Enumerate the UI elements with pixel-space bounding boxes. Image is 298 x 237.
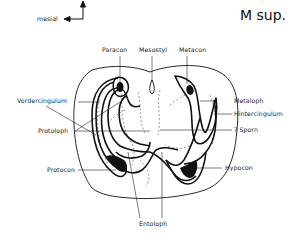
label-protocon: Protocon [47, 167, 75, 173]
tooth-drawing [0, 0, 298, 237]
label-protoloph: Protoloph [38, 128, 68, 134]
orientation-arrows [64, 1, 86, 22]
label-metacon: Metacon [179, 47, 206, 53]
molar-diagram: M sup. mesial Paracon Mesostyl Metacon V… [0, 0, 298, 237]
orientation-label-mesial: mesial [37, 16, 58, 22]
label-metaloph: Metaloph [234, 98, 264, 104]
label-hintercingulum: Hintercingulum [234, 111, 283, 117]
label-mesostyl: Mesostyl [139, 47, 167, 53]
figure-title: M sup. [240, 8, 286, 22]
mesostyl-cusp [150, 80, 155, 94]
label-sporn: ? Sporn [234, 127, 258, 133]
label-paracon: Paracon [102, 47, 127, 53]
label-vordercingulum: Vordercingulum [17, 98, 67, 104]
label-entoloph: Entoloph [139, 221, 167, 227]
label-hypocon: Hypocon [225, 165, 253, 171]
